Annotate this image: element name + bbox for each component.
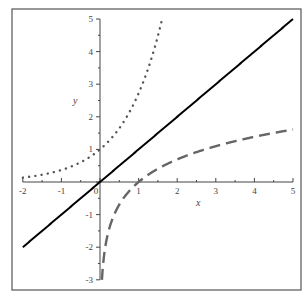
y-tick-label: 2 <box>89 112 94 122</box>
y-tick-label: -3 <box>86 275 94 285</box>
y-tick-label: 4 <box>89 47 94 57</box>
x-tick-label: 3 <box>214 186 219 196</box>
series-solid <box>23 19 293 247</box>
y-tick-label: 5 <box>89 14 94 24</box>
chart: -2-1012345-3-2-112345 x y <box>0 0 308 296</box>
y-axis-label: y <box>72 95 78 106</box>
x-tick-label: -1 <box>58 186 66 196</box>
plot-frame <box>12 9 301 290</box>
y-tick-label: -1 <box>86 210 94 220</box>
axes: -2-1012345-3-2-112345 <box>19 14 296 285</box>
y-tick-label: 1 <box>89 144 94 154</box>
x-tick-label: -2 <box>19 186 27 196</box>
x-tick-label: 2 <box>175 186 180 196</box>
x-tick-label: 4 <box>252 186 257 196</box>
x-axis-label: x <box>195 197 201 208</box>
x-tick-label: 5 <box>291 186 296 196</box>
curves <box>23 19 293 280</box>
x-tick-label: 1 <box>136 186 141 196</box>
y-tick-label: -2 <box>86 242 94 252</box>
y-tick-label: 3 <box>89 79 94 89</box>
